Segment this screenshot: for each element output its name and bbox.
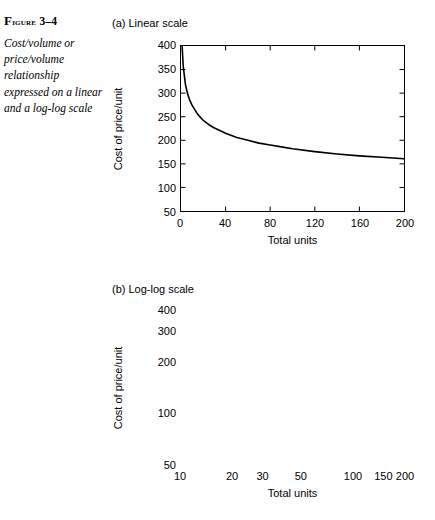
y-tick-label: 150 bbox=[138, 158, 176, 170]
y-tick-label: 400 bbox=[138, 39, 176, 51]
x-tick-label: 80 bbox=[264, 217, 276, 229]
x-tick-label: 10 bbox=[174, 470, 186, 482]
data-line bbox=[182, 46, 404, 159]
chart-panel-linear: (a) Linear scale 50100150200250300350400… bbox=[0, 0, 435, 260]
x-tick-label: 20 bbox=[226, 470, 238, 482]
y-tick-label: 50 bbox=[138, 206, 176, 218]
chart-panel-loglog: (b) Log-log scale 5010020030040010203050… bbox=[0, 265, 435, 520]
y-tick-label: 200 bbox=[138, 356, 176, 368]
y-tick-label: 100 bbox=[138, 182, 176, 194]
y-tick-label: 300 bbox=[138, 325, 176, 337]
x-axis-title: Total units bbox=[268, 487, 318, 499]
y-axis-title: Cost of price/unit bbox=[112, 87, 124, 170]
y-tick-label: 400 bbox=[138, 304, 176, 316]
x-tick-label: 100 bbox=[344, 470, 362, 482]
y-tick-label: 300 bbox=[138, 87, 176, 99]
x-tick-label: 50 bbox=[295, 470, 307, 482]
x-axis-title: Total units bbox=[268, 234, 318, 246]
y-axis-title: Cost of price/unit bbox=[112, 346, 124, 429]
x-tick-label: 0 bbox=[177, 217, 183, 229]
chart-title-loglog: (b) Log-log scale bbox=[112, 283, 194, 295]
y-tick-label: 100 bbox=[138, 407, 176, 419]
x-tick-label: 150 bbox=[374, 470, 392, 482]
y-tick-label: 50 bbox=[138, 459, 176, 471]
x-tick-label: 40 bbox=[219, 217, 231, 229]
x-tick-label: 160 bbox=[351, 217, 369, 229]
y-tick-label: 250 bbox=[138, 111, 176, 123]
x-tick-label: 30 bbox=[256, 470, 268, 482]
chart-title-linear: (a) Linear scale bbox=[112, 17, 188, 29]
y-tick-label: 200 bbox=[138, 134, 176, 146]
x-tick-label: 200 bbox=[396, 470, 414, 482]
x-tick-label: 200 bbox=[396, 217, 414, 229]
plot-area-linear bbox=[180, 45, 405, 212]
plot-canvas-linear bbox=[181, 46, 404, 211]
y-tick-label: 350 bbox=[138, 63, 176, 75]
x-tick-label: 120 bbox=[306, 217, 324, 229]
